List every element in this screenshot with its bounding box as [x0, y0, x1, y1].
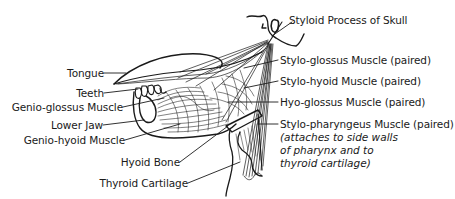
- muscle-hatching: [158, 70, 254, 132]
- note-line-2: of pharynx and to: [280, 144, 374, 157]
- label-lower-jaw: Lower Jaw: [51, 119, 103, 131]
- label-genio-hyoid-muscle: Genio-hyoid Muscle: [24, 134, 125, 146]
- label-stylo-glossus-muscle: Stylo-glossus Muscle (paired): [280, 54, 431, 66]
- note-line-1: (attaches to side walls: [280, 131, 398, 144]
- note-line-3: thyroid cartilage): [280, 157, 371, 170]
- tongue-muscles-diagram: Tongue Teeth Genio-glossus Muscle Lower …: [0, 0, 455, 199]
- label-teeth: Teeth: [76, 87, 104, 99]
- label-styloid-process-of-skull: Styloid Process of Skull: [289, 14, 407, 26]
- hyoid-thyroid-drawing: [226, 110, 262, 196]
- label-stylo-pharyngeus-muscle: Stylo-pharyngeus Muscle (paired): [280, 118, 454, 130]
- label-tongue: Tongue: [67, 67, 104, 79]
- label-stylo-hyoid-muscle: Stylo-hyoid Muscle (paired): [280, 75, 421, 87]
- teeth-drawing: [135, 85, 166, 98]
- label-genio-glossus-muscle: Genio-glossus Muscle: [12, 101, 123, 113]
- label-thyroid-cartilage: Thyroid Cartilage: [99, 177, 188, 189]
- label-hyoid-bone: Hyoid Bone: [121, 156, 180, 168]
- label-hyo-glossus-muscle: Hyo-glossus Muscle (paired): [280, 96, 425, 108]
